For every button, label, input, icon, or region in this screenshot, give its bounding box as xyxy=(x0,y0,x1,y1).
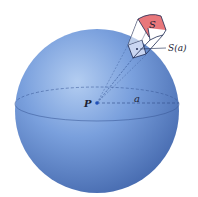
projected-patch-dot xyxy=(136,48,138,50)
label-projected-surface: S(a) xyxy=(168,43,187,53)
sphere-solid-angle-diagram: S S(a) P a xyxy=(0,0,198,197)
label-surface: S xyxy=(149,19,156,30)
label-center: P xyxy=(83,98,92,109)
label-radius: a xyxy=(134,93,140,104)
center-point xyxy=(95,101,99,105)
sphere xyxy=(15,29,179,193)
